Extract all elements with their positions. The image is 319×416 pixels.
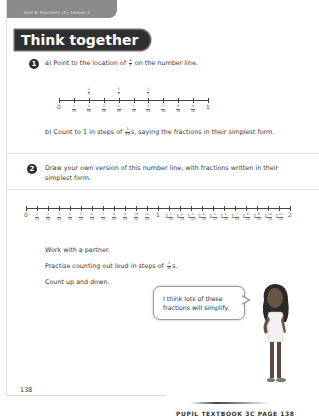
tenths-label: 310	[102, 105, 106, 113]
twelfths-label: 112	[35, 213, 39, 221]
tenths-label: 610	[146, 105, 150, 113]
number-line-tick	[213, 206, 214, 211]
part-a-text-after: on the number line.	[135, 59, 198, 67]
girl-character-illustration	[256, 282, 296, 386]
number-line-tick	[136, 206, 137, 211]
number-line-tick	[114, 206, 115, 211]
part-b-label: b)	[45, 128, 52, 136]
number-line-tick	[125, 206, 126, 211]
number-line-tick	[74, 98, 75, 103]
twelfths-label: 512	[79, 213, 83, 221]
tenths-label: 810	[176, 105, 180, 113]
twelfths-label: 912	[123, 213, 127, 221]
tenths-label: 210	[87, 105, 91, 113]
twelfths-label: 1112	[145, 213, 149, 221]
twelfths-label: 1012	[134, 213, 138, 221]
fraction-four-fifths: 45	[129, 59, 132, 67]
mixed-twelfths-label: 11012	[264, 213, 272, 221]
tenths-label: 910	[191, 105, 195, 113]
next-page-header-cutoff: PUPIL TEXTBOOK 3C PAGE 138	[176, 410, 295, 416]
number-line-tick	[279, 206, 280, 211]
number-line-tick	[148, 98, 149, 103]
number-line-tick	[202, 206, 203, 211]
tenths-label: 110	[72, 105, 76, 113]
label-zero: 0	[24, 213, 28, 217]
question-number-1: 1	[29, 59, 39, 69]
number-line-tick	[235, 206, 236, 211]
number-line-tick	[103, 206, 104, 211]
mixed-twelfths-label: 1612	[220, 213, 228, 221]
number-line-tick	[147, 206, 148, 211]
number-line-tick	[169, 206, 170, 211]
fraction-one-twelfth: 112	[167, 262, 171, 270]
speech-bubble-text: I think lots of these fractions will sim…	[163, 294, 229, 312]
part-b-text-after: s, saying the fractions in their simples…	[131, 128, 274, 136]
number-line-tick	[191, 206, 192, 211]
number-line-tick	[163, 98, 164, 103]
number-line-tick	[246, 206, 247, 211]
twelfths-label: 812	[112, 213, 116, 221]
number-line-tick	[70, 206, 71, 211]
twelfths-label: 712	[101, 213, 105, 221]
twelfths-label: 612	[90, 213, 94, 221]
mixed-twelfths-label: 1812	[242, 213, 250, 221]
section-divider	[6, 153, 319, 154]
question2-line2: simplest form.	[45, 174, 91, 182]
number-line-tick	[92, 206, 93, 211]
page-left-edge	[6, 0, 7, 395]
number-line-tick	[119, 98, 120, 103]
part-a-label: a)	[45, 59, 51, 67]
tenths-label: 710	[161, 105, 165, 113]
section-title: Think together	[21, 32, 138, 48]
number-line-tick	[134, 98, 135, 103]
speech-bubble-tail-inner	[241, 296, 248, 304]
number-line-tick	[81, 206, 82, 211]
page-bottom-edge	[6, 395, 166, 396]
number-line-tick	[178, 98, 179, 103]
fifths-label: 25	[118, 88, 120, 96]
fifths-label: 15	[88, 88, 90, 96]
fraction-one-tenth: 110	[125, 128, 129, 136]
mixed-twelfths-label: 11112	[275, 213, 283, 221]
question-number-2: 2	[27, 164, 37, 174]
label-one: 1	[156, 213, 160, 217]
mixed-twelfths-label: 1312	[187, 213, 195, 221]
number-line-tick	[37, 206, 38, 211]
part-a-text-before: Point to the location of	[53, 59, 125, 67]
mixed-twelfths-label: 1412	[198, 213, 206, 221]
question1-part-a: a) Point to the location of 45 on the nu…	[45, 59, 198, 67]
mixed-twelfths-label: 1712	[231, 213, 239, 221]
number-line-tick	[268, 206, 269, 211]
number-line-tick	[180, 206, 181, 211]
instruction-count: Count up and down.	[45, 278, 109, 286]
mixed-twelfths-label: 1912	[253, 213, 261, 221]
page-fold-shadow	[190, 402, 270, 404]
twelfths-label: 312	[57, 213, 61, 221]
number-line-tick	[48, 206, 49, 211]
mixed-twelfths-label: 1112	[165, 213, 173, 221]
tenths-label: 510	[131, 105, 135, 113]
question2-line1: Draw your own version of this number lin…	[45, 164, 278, 172]
label-two: 2	[288, 213, 292, 217]
twelfths-label: 212	[46, 213, 50, 221]
section-divider	[6, 189, 319, 190]
number-line-tick	[59, 206, 60, 211]
number-line-tick	[104, 98, 105, 103]
number-line-tick	[193, 98, 194, 103]
label-one: 1	[206, 105, 210, 109]
number-line-tick	[89, 98, 90, 103]
fifths-label: 35	[147, 88, 149, 96]
question1-part-b: b) Count to 1 in steps of 110s, saying t…	[45, 128, 274, 136]
number-line-tick	[224, 206, 225, 211]
number-line-tick	[257, 206, 258, 211]
instruction-practise: Practise counting out loud in steps of 1…	[45, 262, 178, 270]
tenths-label: 410	[117, 105, 121, 113]
part-b-text-before: Count to 1 in steps of	[54, 128, 123, 136]
twelfths-label: 412	[68, 213, 72, 221]
label-zero: 0	[57, 105, 61, 109]
mixed-twelfths-label: 1212	[176, 213, 184, 221]
page-number: 138	[20, 386, 32, 394]
section-title-banner: Think together	[15, 30, 150, 50]
unit-label: Unit 8: Fractions (1), Lesson 2	[24, 10, 90, 15]
mixed-twelfths-label: 1512	[209, 213, 217, 221]
